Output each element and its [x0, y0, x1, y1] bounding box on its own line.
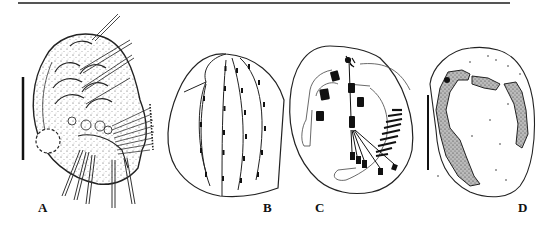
panel-a: A [23, 14, 154, 215]
panel-label-c: C [315, 200, 324, 215]
contractile-vacuole [36, 129, 60, 153]
panel-label-d: D [518, 200, 527, 215]
panel-label-b: B [263, 200, 272, 215]
cell-outline-b [168, 54, 284, 197]
panel-b: B [168, 54, 284, 215]
panel-label-a: A [38, 200, 48, 215]
figure-canvas: A B [0, 0, 549, 230]
micronucleus-d [444, 77, 450, 83]
panel-d: D [428, 47, 534, 215]
panel-c: C [290, 46, 413, 215]
